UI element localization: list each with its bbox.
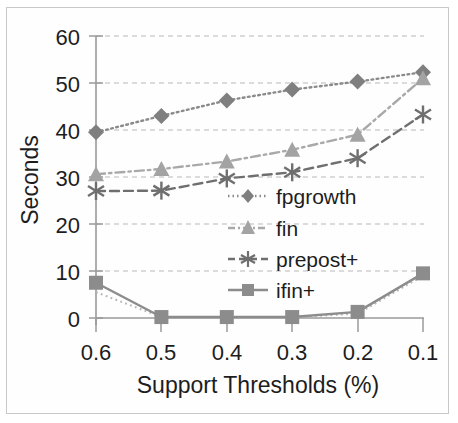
legend-item-ifin: ifin+ bbox=[228, 279, 315, 302]
y-tick-label-20: 20 bbox=[56, 213, 80, 238]
y-tick-label-50: 50 bbox=[56, 72, 80, 97]
series-line-fin bbox=[96, 78, 423, 174]
y-tick-label-10: 10 bbox=[56, 260, 80, 285]
line-chart: 60 50 40 30 20 10 0 Seconds 0.6 0.5 0.4 … bbox=[0, 0, 458, 423]
series-fin bbox=[88, 70, 431, 181]
series-line-prepost+ bbox=[96, 114, 423, 191]
series-layer bbox=[88, 64, 431, 324]
data-point-square bbox=[416, 266, 430, 280]
legend-item-prepost: prepost+ bbox=[228, 248, 358, 271]
legend-label-fpgrowth: fpgrowth bbox=[276, 185, 357, 208]
data-point-diamond bbox=[284, 82, 300, 98]
x-tick-label-1: 0.5 bbox=[146, 340, 177, 365]
series-ifin+ bbox=[89, 266, 430, 324]
data-point-diamond bbox=[219, 92, 235, 108]
legend-item-fpgrowth: fpgrowth bbox=[228, 185, 357, 208]
square-icon bbox=[242, 284, 254, 296]
x-tick-label-4: 0.2 bbox=[343, 340, 374, 365]
x-axis-title: Support Thresholds (%) bbox=[137, 372, 379, 398]
y-tick-label-30: 30 bbox=[56, 166, 80, 191]
legend-label-prepost: prepost+ bbox=[276, 248, 358, 271]
series-fpgrowth bbox=[88, 64, 431, 140]
series-prepost+ bbox=[88, 105, 431, 200]
x-tick-label-3: 0.3 bbox=[277, 340, 308, 365]
y-tick-label-60: 60 bbox=[56, 25, 80, 50]
legend-label-fin: fin bbox=[276, 217, 298, 240]
x-tick-label-0: 0.6 bbox=[81, 340, 112, 365]
data-point-diamond bbox=[88, 124, 104, 140]
data-point-diamond bbox=[350, 74, 366, 90]
x-tick-label-5: 0.1 bbox=[408, 340, 439, 365]
data-point-square bbox=[89, 276, 103, 290]
data-point-square bbox=[154, 310, 168, 324]
legend-label-ifin: ifin+ bbox=[276, 279, 315, 302]
diamond-icon bbox=[242, 189, 254, 203]
series-line-fpgrowth bbox=[96, 72, 423, 132]
series-line-ifin+-shadow bbox=[96, 276, 423, 317]
data-point-square bbox=[220, 310, 234, 324]
data-point-asterisk bbox=[415, 105, 431, 123]
gridlines bbox=[96, 36, 424, 271]
legend-item-fin: fin bbox=[228, 217, 298, 240]
y-tick-label-0: 0 bbox=[68, 307, 80, 332]
y-axis-title: Seconds bbox=[17, 135, 43, 225]
chart-container: 60 50 40 30 20 10 0 Seconds 0.6 0.5 0.4 … bbox=[0, 0, 458, 423]
y-tick-label-40: 40 bbox=[56, 119, 80, 144]
data-point-diamond bbox=[153, 108, 169, 124]
data-point-square bbox=[285, 310, 299, 324]
chart-legend: fpgrowth fin prepost+ ifin+ bbox=[228, 185, 358, 302]
x-tick-label-2: 0.4 bbox=[212, 340, 243, 365]
x-axis-ticks bbox=[96, 318, 423, 332]
data-point-square bbox=[351, 305, 365, 319]
